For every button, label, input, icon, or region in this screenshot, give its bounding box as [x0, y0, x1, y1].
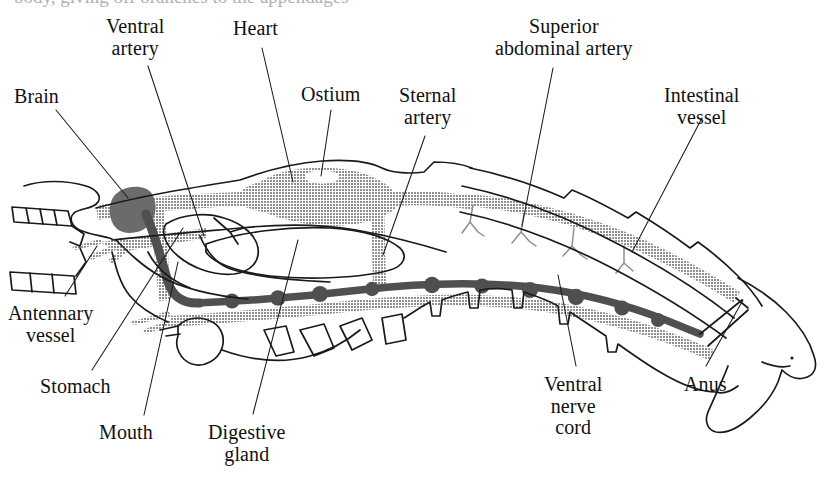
label-intestinal-vessel: Intestinalvessel	[664, 85, 739, 128]
telson-outline	[706, 278, 815, 432]
label-brain-line-1: Brain	[14, 86, 59, 108]
stomach-outline	[164, 215, 259, 275]
leader-line-heart	[262, 48, 293, 182]
leader-line-digestive-gland	[253, 240, 298, 414]
label-ventral-nerve-cord: Ventralnervecord	[544, 374, 602, 439]
leader-line-antennary-vessel	[65, 246, 97, 296]
label-superior-abdominal-artery-line-1: Superior	[495, 16, 633, 38]
label-anus-line-1: Anus	[684, 374, 727, 396]
label-ventral-artery: Ventralartery	[106, 16, 164, 59]
leader-line-brain	[56, 110, 128, 198]
label-sternal-artery-line-2: artery	[399, 107, 456, 129]
walking-legs	[264, 314, 406, 356]
leader-line-superior-abdominal-artery	[522, 68, 553, 226]
label-superior-abdominal-artery-line-2: abdominal artery	[495, 38, 633, 60]
label-ventral-artery-line-1: Ventral	[106, 16, 164, 38]
label-antennary-vessel: Antennaryvessel	[8, 303, 93, 346]
label-antennary-vessel-line-1: Antennary	[8, 303, 93, 325]
label-heart-line-1: Heart	[233, 18, 278, 40]
label-mouth: Mouth	[99, 422, 153, 444]
anatomy-drawing	[0, 0, 827, 485]
label-ventral-nerve-cord-line-3: cord	[544, 417, 602, 439]
antenna-lower	[10, 248, 86, 294]
label-mouth-line-1: Mouth	[99, 422, 153, 444]
label-digestive-gland: Digestivegland	[208, 422, 286, 465]
label-ostium: Ostium	[301, 84, 361, 106]
leader-line-ostium	[321, 110, 331, 176]
label-stomach: Stomach	[40, 376, 111, 398]
figure-root: body, giving off branches to the appenda…	[0, 0, 827, 485]
label-intestinal-vessel-line-1: Intestinal	[664, 85, 739, 107]
intestine-outline	[700, 300, 748, 346]
label-ventral-artery-line-2: artery	[106, 38, 164, 60]
label-heart: Heart	[233, 18, 278, 40]
label-ostium-line-1: Ostium	[301, 84, 361, 106]
label-stomach-line-1: Stomach	[40, 376, 111, 398]
label-digestive-gland-line-2: gland	[208, 444, 286, 466]
label-sternal-artery: Sternalartery	[399, 85, 456, 128]
label-sternal-artery-line-1: Sternal	[399, 85, 456, 107]
label-brain: Brain	[14, 86, 59, 108]
label-ventral-nerve-cord-line-2: nerve	[544, 396, 602, 418]
label-digestive-gland-line-1: Digestive	[208, 422, 286, 444]
label-antennary-vessel-line-2: vessel	[8, 325, 93, 347]
label-intestinal-vessel-line-2: vessel	[664, 107, 739, 129]
label-ventral-nerve-cord-line-1: Ventral	[544, 374, 602, 396]
label-anus: Anus	[684, 374, 727, 396]
label-superior-abdominal-artery: Superiorabdominal artery	[495, 16, 633, 59]
abdomen-dorsal-outline	[460, 168, 762, 338]
